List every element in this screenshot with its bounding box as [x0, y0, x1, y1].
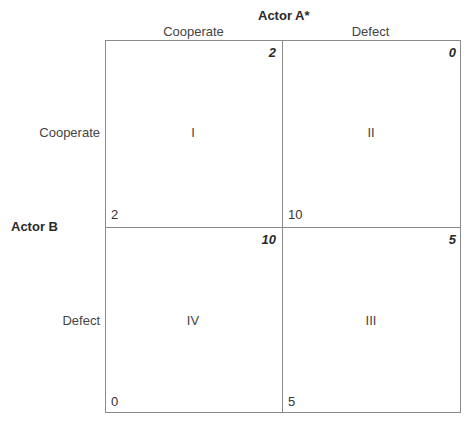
row-label-defect: Defect [0, 313, 100, 328]
cell-i-numeral: I [173, 125, 213, 140]
matrix-horizontal-divider [105, 227, 461, 228]
cell-ii-payoff-a: 0 [416, 45, 456, 60]
column-label-defect: Defect [282, 24, 459, 39]
row-label-cooperate: Cooperate [0, 125, 100, 140]
cell-i-payoff-a: 2 [236, 45, 276, 60]
cell-iv-numeral: IV [173, 313, 213, 328]
cell-iv-payoff-b: 0 [111, 394, 118, 409]
cell-iv-payoff-a: 10 [236, 232, 276, 247]
actor-b-label: Actor B [11, 219, 58, 234]
cell-ii-numeral: II [351, 125, 391, 140]
cell-iii-numeral: III [351, 313, 391, 328]
cell-iii-payoff-b: 5 [288, 394, 295, 409]
cell-iii-payoff-a: 5 [416, 232, 456, 247]
cell-ii-payoff-b: 10 [288, 207, 302, 222]
actor-a-label: Actor A* [258, 8, 310, 23]
cell-i-payoff-b: 2 [111, 207, 118, 222]
column-label-cooperate: Cooperate [105, 24, 282, 39]
